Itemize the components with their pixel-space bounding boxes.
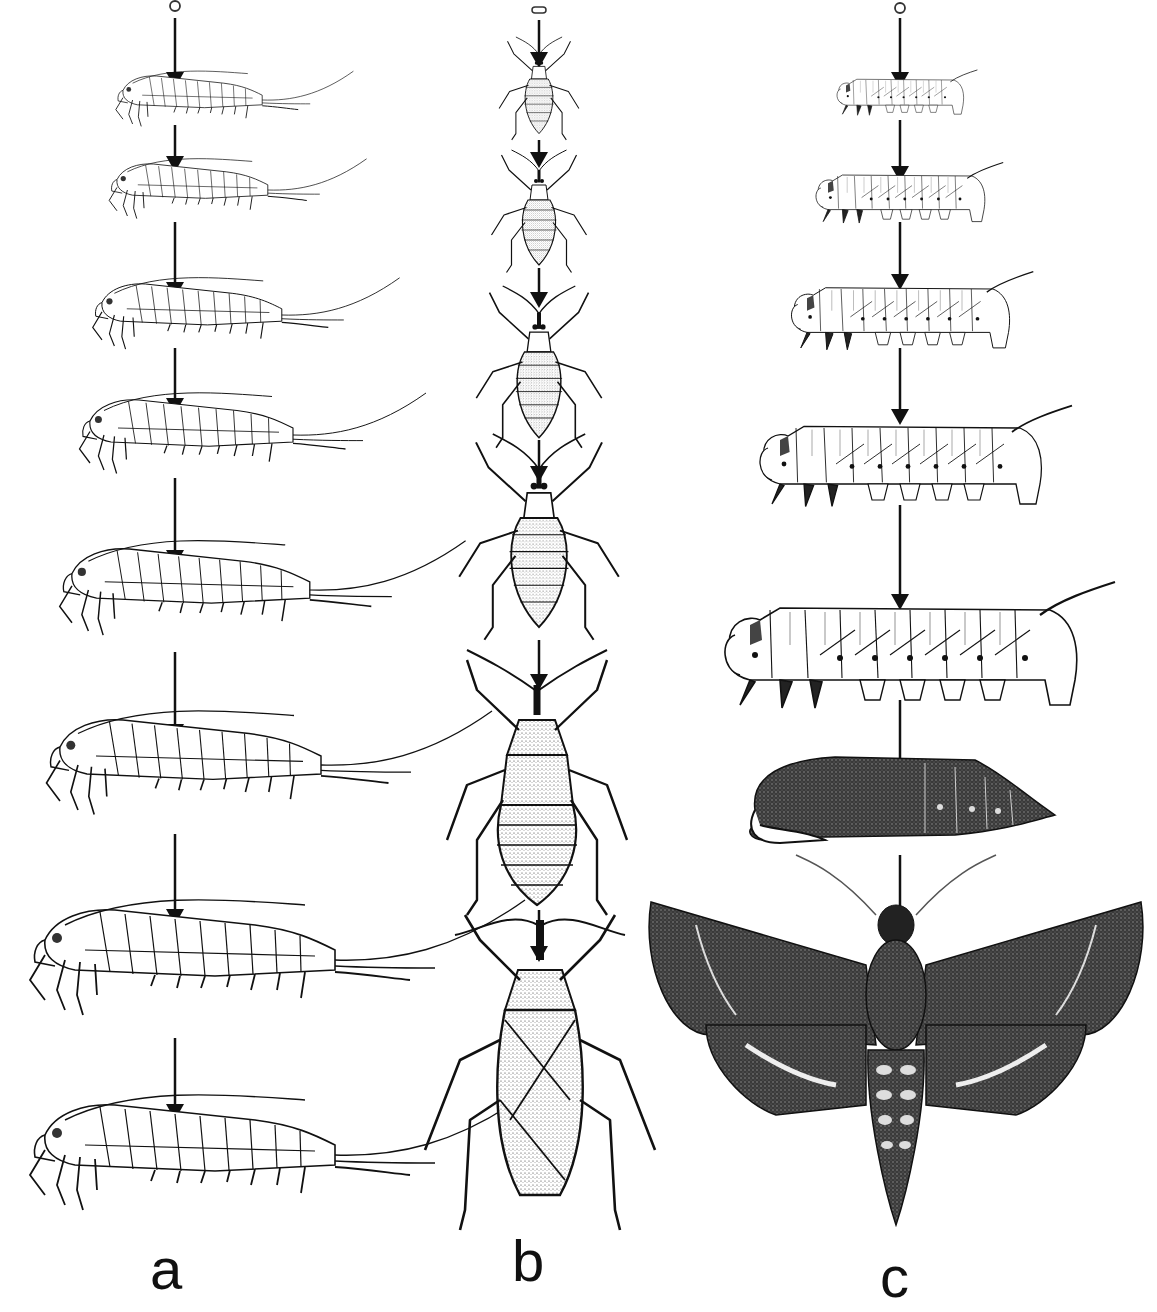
egg-stage-1 (532, 7, 546, 13)
panel-label-a: a (150, 1240, 182, 1298)
silverfish-stage-5 (80, 393, 427, 474)
silverfish-stage-7 (46, 711, 492, 815)
egg-stage-1 (895, 3, 905, 13)
arrow-down-icon (891, 18, 909, 88)
panel-label-b: b (512, 1232, 544, 1290)
nymph-stage-3 (492, 150, 587, 273)
silverfish-stage-6 (60, 541, 466, 636)
arrow-down-icon (530, 268, 548, 308)
arrow-down-icon (891, 348, 909, 425)
caterpillar-stage-6 (725, 582, 1115, 708)
caterpillar-stage-2 (837, 70, 977, 115)
bug-adult-stage (425, 915, 655, 1230)
nymph-stage-4 (476, 286, 601, 448)
arrow-down-icon (891, 120, 909, 182)
arrow-down-icon (166, 834, 184, 925)
arrow-down-icon (891, 222, 909, 290)
caterpillar-stage-5 (760, 406, 1072, 507)
arrow-down-icon (530, 640, 548, 690)
metamorphosis-figure: a b c (0, 0, 1157, 1312)
arrow-down-icon (166, 1038, 184, 1120)
silverfish-stage-2 (116, 71, 354, 126)
panel-a (30, 1, 525, 1210)
arrow-down-icon (166, 125, 184, 172)
caterpillar-stage-3 (816, 163, 1003, 223)
winged-nymph-stage (447, 650, 627, 915)
silverfish-stage-4 (93, 278, 400, 349)
pupa-stage (750, 757, 1055, 843)
silverfish-stage-8 (30, 900, 525, 1015)
silverfish-stage-9 (30, 1095, 525, 1210)
panel-label-c: c (880, 1248, 909, 1306)
egg-stage-1 (170, 1, 180, 11)
caterpillar-stage-4 (791, 272, 1033, 350)
moth-adult-stage (649, 855, 1143, 1225)
figure-artwork (0, 0, 1157, 1312)
silverfish-stage-3 (109, 159, 366, 219)
arrow-down-icon (891, 505, 909, 610)
